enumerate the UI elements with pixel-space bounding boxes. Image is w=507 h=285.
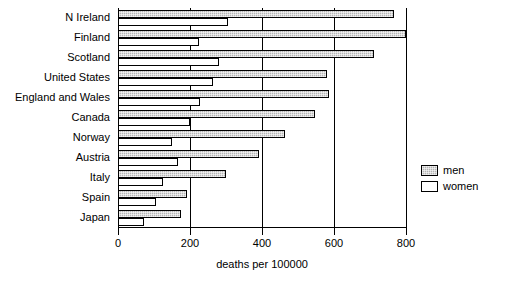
legend-swatch-men-icon bbox=[421, 165, 438, 176]
bar-men bbox=[118, 30, 406, 38]
category-label: Japan bbox=[80, 212, 110, 223]
bar-women bbox=[118, 158, 178, 166]
category-label: Norway bbox=[73, 132, 110, 143]
category-label: Scotland bbox=[67, 52, 110, 63]
bar-group bbox=[118, 68, 406, 88]
x-tick-label: 200 bbox=[181, 237, 199, 249]
bar-group bbox=[118, 88, 406, 108]
legend-swatch-women-icon bbox=[421, 181, 438, 192]
bar-women bbox=[118, 78, 213, 86]
category-label: Italy bbox=[90, 172, 110, 183]
bar-women bbox=[118, 178, 163, 186]
chart-legend: men women bbox=[421, 163, 478, 195]
bar-men bbox=[118, 70, 327, 78]
bar-group bbox=[118, 48, 406, 68]
x-tick-mark bbox=[334, 228, 335, 235]
x-tick-mark bbox=[118, 228, 119, 235]
bar-group bbox=[118, 188, 406, 208]
bar-men bbox=[118, 110, 315, 118]
legend-label-women: women bbox=[443, 181, 478, 192]
x-tick-mark bbox=[190, 228, 191, 235]
bar-women bbox=[118, 98, 200, 106]
bar-men bbox=[118, 90, 329, 98]
x-tick-label: 400 bbox=[253, 237, 271, 249]
x-tick-mark bbox=[406, 228, 407, 235]
x-axis-title: deaths per 100000 bbox=[118, 258, 406, 271]
plot-area bbox=[118, 8, 406, 228]
legend-label-men: men bbox=[443, 165, 464, 176]
bar-group bbox=[118, 8, 406, 28]
bar-women bbox=[118, 58, 219, 66]
x-tick-label: 0 bbox=[115, 237, 121, 249]
category-label: Spain bbox=[82, 192, 110, 203]
bar-women bbox=[118, 218, 144, 226]
bar-group bbox=[118, 168, 406, 188]
bar-men bbox=[118, 10, 394, 18]
bar-women bbox=[118, 38, 199, 46]
bar-group bbox=[118, 28, 406, 48]
legend-divider bbox=[406, 8, 407, 228]
category-label: Austria bbox=[76, 152, 110, 163]
legend-item-men: men bbox=[421, 163, 478, 177]
category-axis: N IrelandFinlandScotlandUnited StatesEng… bbox=[0, 0, 114, 228]
bar-men bbox=[118, 190, 187, 198]
legend-item-women: women bbox=[421, 179, 478, 193]
bar-chart: N IrelandFinlandScotlandUnited StatesEng… bbox=[0, 0, 507, 285]
x-tick-label: 600 bbox=[325, 237, 343, 249]
bar-group bbox=[118, 108, 406, 128]
x-tick-label: 800 bbox=[397, 237, 415, 249]
x-tick-mark bbox=[262, 228, 263, 235]
bar-men bbox=[118, 50, 374, 58]
bar-women bbox=[118, 18, 228, 26]
x-axis: 0200400600800 bbox=[118, 228, 406, 258]
bar-men bbox=[118, 170, 226, 178]
bar-group bbox=[118, 208, 406, 228]
bar-women bbox=[118, 118, 190, 126]
bar-men bbox=[118, 150, 259, 158]
category-label: Finland bbox=[74, 32, 110, 43]
bar-women bbox=[118, 138, 172, 146]
bar-men bbox=[118, 130, 285, 138]
bar-men bbox=[118, 210, 181, 218]
category-label: N Ireland bbox=[65, 12, 110, 23]
bar-group bbox=[118, 128, 406, 148]
bar-group bbox=[118, 148, 406, 168]
bar-women bbox=[118, 198, 156, 206]
category-label: Canada bbox=[71, 112, 110, 123]
category-label: United States bbox=[44, 72, 110, 83]
category-label: England and Wales bbox=[15, 92, 110, 103]
